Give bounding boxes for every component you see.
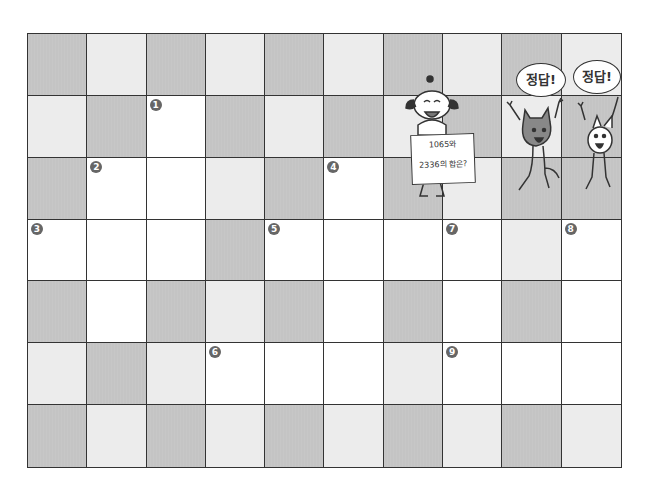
grid-cell bbox=[147, 34, 206, 96]
grid-cell bbox=[206, 281, 265, 343]
grid-cell bbox=[206, 34, 265, 96]
grid-cell bbox=[502, 158, 561, 220]
grid-cell bbox=[443, 34, 502, 96]
grid-cell bbox=[206, 220, 265, 282]
grid-cell bbox=[87, 34, 146, 96]
clue-number-badge: 7 bbox=[446, 223, 458, 235]
grid-cell[interactable]: 4 bbox=[324, 158, 383, 220]
grid-cell[interactable]: 9 bbox=[443, 343, 502, 405]
rabbit-speech-bubble: 정답! bbox=[573, 60, 621, 94]
grid-cell bbox=[87, 405, 146, 467]
grid-cell bbox=[502, 405, 561, 467]
grid-cell[interactable] bbox=[324, 220, 383, 282]
clue-number-badge: 9 bbox=[446, 346, 458, 358]
grid-cell bbox=[265, 158, 324, 220]
sign-line-2: 2336의 합은? bbox=[412, 154, 475, 176]
grid-cell bbox=[206, 158, 265, 220]
grid-cell bbox=[87, 96, 146, 158]
grid-cell[interactable] bbox=[265, 343, 324, 405]
grid-cell bbox=[87, 343, 146, 405]
grid-cell[interactable] bbox=[502, 343, 561, 405]
grid-cell[interactable] bbox=[562, 343, 621, 405]
grid-cell[interactable]: 2 bbox=[87, 158, 146, 220]
grid-cell bbox=[147, 281, 206, 343]
grid-cell[interactable] bbox=[384, 220, 443, 282]
grid-cell[interactable]: 5 bbox=[265, 220, 324, 282]
grid-cell bbox=[147, 343, 206, 405]
grid-cell bbox=[384, 405, 443, 467]
grid-cell[interactable] bbox=[147, 158, 206, 220]
grid-cell bbox=[28, 281, 87, 343]
grid-cell[interactable]: 7 bbox=[443, 220, 502, 282]
grid-cell bbox=[324, 405, 383, 467]
grid-cell bbox=[206, 405, 265, 467]
question-sign: 1065와 2336의 합은? bbox=[410, 133, 476, 185]
sign-line-1: 1065와 bbox=[411, 134, 474, 156]
clue-number-badge: 6 bbox=[209, 346, 221, 358]
grid-cell bbox=[502, 220, 561, 282]
clue-number-badge: 8 bbox=[565, 223, 577, 235]
grid-cell bbox=[443, 405, 502, 467]
grid-cell bbox=[324, 96, 383, 158]
grid-cell[interactable]: 6 bbox=[206, 343, 265, 405]
clue-number-badge: 1 bbox=[150, 99, 162, 111]
grid-cell bbox=[28, 96, 87, 158]
grid-cell bbox=[265, 34, 324, 96]
grid-cell[interactable] bbox=[443, 281, 502, 343]
clue-number-badge: 2 bbox=[90, 161, 102, 173]
grid-cell bbox=[265, 405, 324, 467]
grid-cell[interactable] bbox=[324, 343, 383, 405]
grid-cell[interactable]: 3 bbox=[28, 220, 87, 282]
grid-cell[interactable] bbox=[147, 220, 206, 282]
grid-cell bbox=[28, 405, 87, 467]
clue-number-badge: 3 bbox=[31, 223, 43, 235]
grid-cell bbox=[562, 96, 621, 158]
grid-cell bbox=[562, 158, 621, 220]
grid-cell[interactable] bbox=[87, 281, 146, 343]
grid-cell bbox=[384, 343, 443, 405]
grid-cell bbox=[502, 96, 561, 158]
grid-cell[interactable] bbox=[324, 281, 383, 343]
grid-cell bbox=[28, 343, 87, 405]
grid-cell[interactable] bbox=[87, 220, 146, 282]
grid-cell bbox=[384, 34, 443, 96]
grid-cell bbox=[28, 34, 87, 96]
cat-speech-bubble: 정답! bbox=[516, 63, 566, 97]
clue-number-badge: 5 bbox=[268, 223, 280, 235]
grid-cell bbox=[265, 96, 324, 158]
grid-cell[interactable]: 1 bbox=[147, 96, 206, 158]
grid-cell bbox=[206, 96, 265, 158]
crossword-board: 124357869 bbox=[27, 33, 622, 468]
grid-cell[interactable]: 8 bbox=[562, 220, 621, 282]
grid-cell bbox=[147, 405, 206, 467]
grid-cell bbox=[502, 281, 561, 343]
grid-cell bbox=[28, 158, 87, 220]
grid-cell bbox=[324, 34, 383, 96]
grid-cell bbox=[265, 281, 324, 343]
clue-number-badge: 4 bbox=[327, 161, 339, 173]
grid-cell bbox=[562, 405, 621, 467]
grid-cell[interactable] bbox=[562, 281, 621, 343]
grid-cell bbox=[384, 281, 443, 343]
